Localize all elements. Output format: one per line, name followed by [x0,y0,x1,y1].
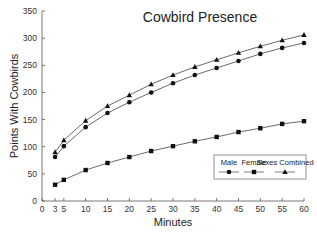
x-tick-label: 30 [168,204,178,214]
chart-title: Cowbird Presence [143,9,258,25]
y-tick-label: 150 [23,115,37,125]
x-tick-label: 35 [190,204,200,214]
y-tick-label: 350 [23,6,37,16]
y-tick-label: 0 [32,196,37,206]
x-axis-title: Minutes [154,216,193,228]
x-tick-label: 5 [61,204,66,214]
legend-item-male: Male [219,158,239,174]
x-tick-label: 55 [277,204,287,214]
y-tick-label: 250 [23,60,37,70]
y-axis: 050100150200250300350 [23,6,45,206]
x-tick-label: 45 [234,204,244,214]
x-tick-label: 50 [256,204,266,214]
x-tick-label: 15 [103,204,113,214]
x-tick-label: 20 [125,204,135,214]
y-tick-label: 300 [23,33,37,43]
series-male [53,41,307,160]
series-sexes-combined [52,32,306,154]
x-tick-label: 0 [40,204,45,214]
y-tick-label: 200 [23,87,37,97]
x-tick-label: 40 [212,204,222,214]
svg-text:Sexes Combined: Sexes Combined [256,158,313,167]
x-tick-label: 3 [53,204,58,214]
x-axis: 0351015202530354045505560 [40,198,309,214]
x-tick-label: 10 [81,204,91,214]
legend: MaleFemaleSexes Combined [214,155,314,179]
y-axis-title: Points With Cowbirds [8,53,20,158]
y-tick-label: 100 [23,142,37,152]
svg-text:Male: Male [221,158,237,167]
y-tick-label: 50 [28,169,38,179]
x-tick-label: 25 [146,204,156,214]
x-tick-label: 60 [299,204,309,214]
line-chart: Cowbird Presence 050100150200250300350 0… [0,0,317,238]
